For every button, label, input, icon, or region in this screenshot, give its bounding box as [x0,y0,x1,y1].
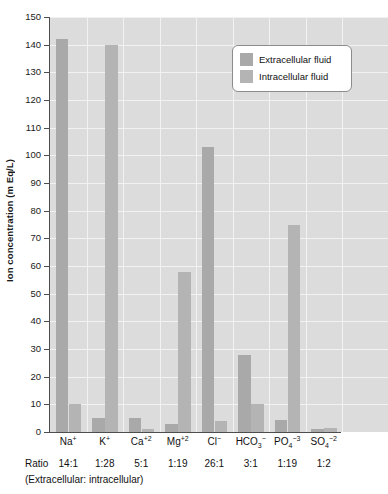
ratio-value: 3:1 [233,458,270,469]
horizontal-gridline [50,183,388,184]
y-axis-tick-label: 30 [0,343,48,355]
horizontal-gridline [50,155,388,156]
x-axis-tick-label: Cl− [196,436,233,447]
ratio-value: 14:1 [50,458,87,469]
x-axis-tick-label: PO4−3 [269,436,306,449]
y-axis-tick-label: 100 [0,149,48,161]
vertical-gridline [87,17,88,432]
ratio-value: 1:28 [87,458,124,469]
bar [105,45,118,432]
horizontal-gridline [50,211,388,212]
legend-item-label: Extracellular fluid [259,54,331,65]
bar [288,225,301,433]
bar [238,355,251,432]
x-axis-tick-label: HCO3− [233,436,270,449]
y-axis-tick-label: 70 [0,232,48,244]
y-axis-tick-label: 150 [0,11,48,23]
ratio-row: Ratio 14:11:285:11:1926:13:11:191:2 [50,458,388,473]
legend-item[interactable]: Intracellular fluid [240,68,344,85]
y-axis-line [49,17,50,433]
y-axis-tick-label: 50 [0,288,48,300]
y-axis-tick-label: 140 [0,39,48,51]
bar [275,420,288,432]
y-axis-tick-label: 120 [0,94,48,106]
y-axis-tick-label: 10 [0,398,48,410]
ratio-value: 1:2 [306,458,343,469]
horizontal-gridline [50,377,388,378]
x-axis-tick-label: Mg+2 [160,436,197,447]
bar [92,418,105,432]
horizontal-gridline [50,349,388,350]
x-axis-labels: Na+K+Ca+2Mg+2Cl−HCO3−PO4−3SO4−2 [50,436,388,454]
horizontal-gridline [50,266,388,267]
y-axis-tick-label: 90 [0,177,48,189]
ratio-value: 26:1 [196,458,233,469]
bar [215,421,228,432]
horizontal-gridline [50,238,388,239]
y-axis-tick-label: 40 [0,315,48,327]
horizontal-gridline [50,294,388,295]
x-axis-tick-label: Na+ [50,436,87,447]
ion-concentration-chart-figure: Ion concentration (m Eq/L) 0102030405060… [0,0,388,494]
ratio-value: 1:19 [269,458,306,469]
y-axis-tick-label: 130 [0,66,48,78]
x-axis-tick-label: K+ [87,436,124,447]
bar [202,147,215,432]
horizontal-gridline [50,321,388,322]
x-axis-line [49,432,341,433]
horizontal-gridline [50,100,388,101]
ratio-value: 1:19 [160,458,197,469]
y-axis-tick-label: 60 [0,260,48,272]
legend-swatch-icon [240,70,253,83]
x-axis-tick-label: Ca+2 [123,436,160,447]
vertical-gridline [196,17,197,432]
ratio-value: 5:1 [123,458,160,469]
bar [129,418,142,432]
ratio-caption: (Extracellular: intracellular) [25,474,143,485]
bar [178,272,191,432]
horizontal-gridline [50,128,388,129]
x-axis-tick-label: SO4−2 [306,436,343,449]
bar [165,424,178,432]
y-axis-tick-label: 20 [0,371,48,383]
legend-item-label: Intracellular fluid [259,71,328,82]
legend-item[interactable]: Extracellular fluid [240,51,344,68]
ratio-row-label: Ratio [25,458,48,469]
y-axis-tick-label: 0 [0,426,48,438]
horizontal-gridline [50,17,388,18]
legend-swatch-icon [240,53,253,66]
bar [251,404,264,432]
vertical-gridline [160,17,161,432]
y-axis-tick-label: 110 [0,122,48,134]
vertical-gridline [123,17,124,432]
bar [56,39,69,432]
chart-legend: Extracellular fluidIntracellular fluid [232,45,352,92]
y-axis-tick-label: 80 [0,205,48,217]
bar [69,404,82,432]
horizontal-gridline [50,404,388,405]
